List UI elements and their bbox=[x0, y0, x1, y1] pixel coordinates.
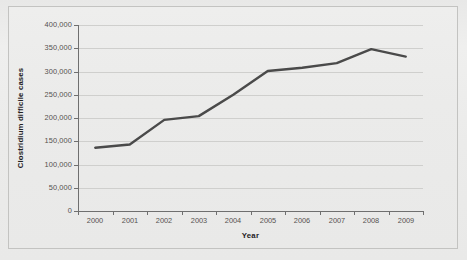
x-axis-tick-label: 2009 bbox=[386, 216, 426, 225]
x-axis-tick-label: 2002 bbox=[144, 216, 184, 225]
x-axis-title: Year bbox=[78, 231, 423, 240]
x-axis-tick-label: 2004 bbox=[213, 216, 253, 225]
y-axis-title: Clostridium difficile cases bbox=[16, 25, 30, 211]
data-series-line bbox=[78, 25, 423, 211]
x-axis-tick-label: 2008 bbox=[351, 216, 391, 225]
x-axis-tick-label: 2006 bbox=[282, 216, 322, 225]
figure-root: 050,000100,000150,000200,000250,000300,0… bbox=[0, 0, 467, 260]
x-axis-tick-label: 2000 bbox=[75, 216, 115, 225]
